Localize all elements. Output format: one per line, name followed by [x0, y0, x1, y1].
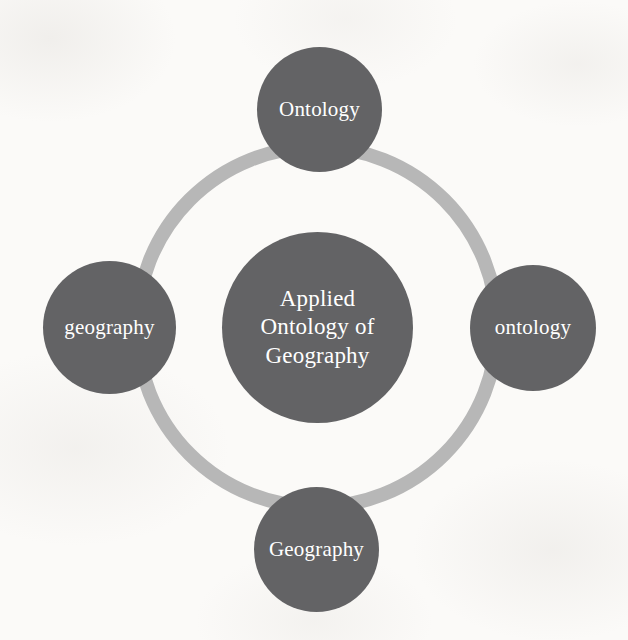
node-geography-lower[interactable]: geography — [43, 261, 176, 394]
node-ontology-lower[interactable]: ontology — [470, 265, 596, 391]
node-label: geography — [58, 315, 160, 341]
node-label: ontology — [489, 315, 577, 341]
node-ontology-upper[interactable]: Ontology — [257, 47, 382, 172]
node-label: Applied Ontology of Geography — [255, 285, 381, 369]
node-label: Ontology — [273, 97, 366, 123]
diagram-canvas: Ontology geography Applied Ontology of G… — [0, 0, 628, 640]
node-label: Geography — [263, 537, 370, 563]
node-geography-upper[interactable]: Geography — [254, 487, 379, 612]
node-applied-ontology-of-geography[interactable]: Applied Ontology of Geography — [222, 232, 413, 423]
